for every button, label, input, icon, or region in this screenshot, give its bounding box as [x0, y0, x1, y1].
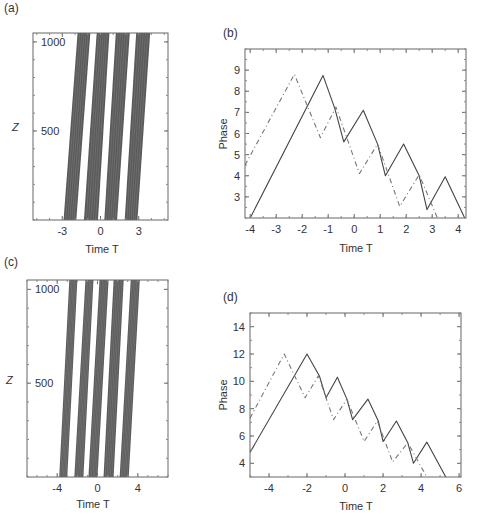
dashed-curve: [250, 354, 427, 477]
panel-d-plot: -4-20246468101214: [233, 313, 462, 494]
y-tick-label: 1000: [35, 283, 59, 295]
y-tick-label: 4: [234, 170, 240, 182]
panel-label-b: (b): [223, 26, 238, 40]
panel-d-ylabel: Phase: [217, 379, 229, 410]
x-tick-label: 3: [136, 225, 142, 237]
panel-d-xlabel: Time T: [339, 500, 373, 512]
panel-label-a: (a): [4, 1, 19, 15]
x-tick-label: 0: [351, 223, 357, 235]
x-tick-label: 2: [380, 482, 386, 494]
x-tick-label: -3: [57, 225, 67, 237]
dashed-curve: [245, 74, 437, 218]
panel-c-ylabel: Z: [5, 374, 14, 386]
y-tick-label: 6: [234, 128, 240, 140]
panel-a-xlabel: Time T: [85, 243, 119, 255]
x-tick-label: 0: [94, 482, 100, 494]
y-tick-label: 6: [239, 430, 245, 442]
y-tick-label: 7: [234, 106, 240, 118]
y-tick-label: 1000: [41, 36, 65, 48]
x-tick-label: -2: [297, 223, 307, 235]
x-tick-label: 4: [455, 223, 461, 235]
panel-b-plot: -4-3-2-1012343456789: [234, 49, 466, 235]
figure: (a) (b) (c) (d) -3035001000 Z Time T -4-…: [0, 0, 478, 523]
y-tick-label: 4: [239, 457, 245, 469]
panel-a-plot: -3035001000: [33, 33, 168, 237]
x-tick-label: -2: [302, 482, 312, 494]
x-tick-label: 4: [135, 482, 141, 494]
panel-b-xlabel: Time T: [339, 242, 373, 254]
y-tick-label: 5: [234, 149, 240, 161]
y-tick-label: 14: [233, 321, 245, 333]
y-tick-label: 500: [35, 377, 53, 389]
x-tick-label: -4: [245, 223, 255, 235]
x-tick-label: 4: [418, 482, 424, 494]
panel-c-xlabel: Time T: [76, 498, 110, 510]
x-tick-label: -4: [264, 482, 274, 494]
panel-label-c: (c): [4, 255, 18, 269]
panel-b-ylabel: Phase: [217, 118, 229, 149]
x-tick-label: -4: [52, 482, 62, 494]
y-tick-label: 500: [41, 125, 59, 137]
y-tick-label: 12: [233, 348, 245, 360]
x-tick-label: 2: [403, 223, 409, 235]
y-tick-label: 10: [233, 375, 245, 387]
x-tick-label: 0: [97, 225, 103, 237]
x-tick-label: 1: [377, 223, 383, 235]
x-tick-label: -3: [271, 223, 281, 235]
panel-label-d: (d): [223, 290, 238, 304]
y-tick-label: 8: [239, 403, 245, 415]
x-tick-label: -1: [323, 223, 333, 235]
panel-c-plot: -4045001000: [27, 280, 168, 494]
x-tick-label: 0: [342, 482, 348, 494]
y-tick-label: 9: [234, 64, 240, 76]
x-tick-label: 3: [429, 223, 435, 235]
panel-a-ylabel: Z: [11, 121, 20, 133]
y-tick-label: 3: [234, 191, 240, 203]
solid-curve: [250, 75, 465, 218]
y-tick-label: 8: [234, 85, 240, 97]
x-tick-label: 6: [456, 482, 462, 494]
